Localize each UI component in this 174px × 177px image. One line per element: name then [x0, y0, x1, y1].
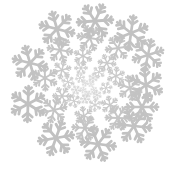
snowflake-branch: [138, 138, 140, 142]
snowflake-branch: [77, 135, 80, 137]
snowflake-branch: [81, 45, 84, 47]
snowflake-branch: [89, 52, 91, 53]
snowflake-branch: [113, 107, 114, 110]
snowflake-branch: [52, 54, 56, 55]
snowflake-branch: [110, 123, 114, 124]
snowflake-branch: [75, 59, 77, 60]
snowflake-artwork-canvas: [0, 0, 174, 177]
snowflake-branch: [12, 108, 16, 111]
snowflake-branch: [36, 56, 42, 58]
snowflake-branch: [89, 91, 90, 92]
snowflake-branch: [77, 72, 78, 73]
snowflake-branch: [66, 89, 68, 91]
snowflake-branch: [101, 66, 104, 67]
snowflake-branch: [18, 68, 24, 70]
snowflake-branch: [148, 94, 152, 97]
snowflake-branch: [95, 67, 96, 68]
snowflake-branch: [51, 57, 54, 58]
snowflake-branch: [89, 79, 90, 80]
snowflake-branch: [132, 117, 136, 120]
snowflake-branch: [53, 72, 56, 74]
snowflake-branch: [78, 97, 79, 98]
snowflake-branch: [40, 52, 44, 54]
snowflake-branch: [100, 93, 101, 94]
snowflake-branch: [101, 68, 103, 69]
snowflake-spiral-svg: [0, 0, 174, 177]
snowflake-branch: [72, 89, 73, 90]
snowflake-branch: [157, 77, 161, 79]
snowflake-branch: [100, 102, 101, 103]
snowflake-branch: [42, 22, 44, 26]
snowflake-branch: [66, 42, 69, 43]
snowflake-branch: [73, 93, 74, 94]
snowflake-branch: [63, 79, 64, 80]
snowflake-branch: [72, 78, 73, 79]
snowflake-branch: [78, 87, 79, 88]
snowflake-branch: [79, 34, 80, 37]
snowflake-branch: [104, 55, 105, 57]
snowflake-branch: [120, 93, 123, 94]
snowflake-branch: [90, 111, 92, 112]
snowflake-branch: [82, 138, 84, 142]
snowflake-branch: [113, 101, 116, 102]
snowflake-branch: [67, 18, 71, 20]
snowflake-branch: [81, 42, 85, 45]
snowflake-branch: [112, 146, 114, 150]
snowflake-branch: [40, 97, 44, 100]
snowflake-branch: [69, 104, 70, 105]
snowflake-branch: [123, 132, 129, 134]
snowflake-branch: [17, 72, 21, 74]
snowflake-branch: [62, 59, 63, 62]
snowflake-branch: [91, 118, 94, 120]
snowflake-branch: [102, 75, 103, 76]
snowflake-branch: [81, 88, 82, 89]
snowflake-branch: [93, 97, 94, 98]
snowflake-branch: [69, 103, 71, 104]
snowflake-branch: [86, 154, 90, 157]
snowflake-branch: [103, 109, 105, 110]
snowflake-branch: [107, 132, 111, 135]
snowflake-branch: [115, 100, 117, 101]
snowflake-branch: [122, 137, 126, 138]
snowflake-branch: [34, 82, 37, 84]
snowflake-branch: [43, 38, 47, 40]
snowflake-branch: [85, 92, 86, 93]
snowflake-branch: [110, 126, 113, 127]
snowflake-branch: [80, 90, 81, 91]
snowflake-branch: [76, 111, 77, 113]
snowflake-branch: [104, 107, 107, 108]
snowflake-branch: [89, 107, 90, 108]
snowflake-branch: [63, 85, 64, 86]
snowflake-branch: [73, 83, 74, 84]
snowflake-branch: [123, 109, 126, 110]
snowflake-branch: [100, 40, 101, 43]
snowflake-branch: [76, 98, 78, 99]
snowflake-branch: [70, 32, 72, 36]
